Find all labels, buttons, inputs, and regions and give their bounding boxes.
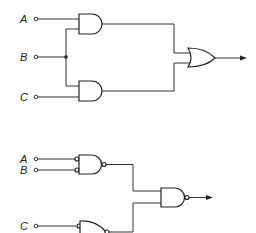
- inverter-bubble: [102, 163, 106, 167]
- input-terminal-c: [34, 95, 38, 99]
- and-gate-1: [79, 14, 102, 34]
- nor-gate-bottom: [80, 221, 106, 233]
- circuit-nand: A B C: [19, 153, 213, 233]
- wire-and1-or: [102, 24, 191, 53]
- or-gate: [188, 48, 215, 67]
- wire-bottom-nand: [109, 203, 161, 232]
- wire-top-nand: [106, 165, 161, 192]
- input-label-a: A: [19, 13, 27, 25]
- nand-gate-final: [161, 188, 185, 207]
- nand-gate-top: [79, 155, 102, 174]
- junction-dot: [64, 55, 68, 59]
- wire-a2-b2: [38, 159, 75, 170]
- output-arrow-icon: [240, 56, 247, 61]
- input-label-b2: B: [20, 164, 27, 176]
- input-terminal-b2: [34, 168, 38, 172]
- input-terminal-c2: [34, 224, 38, 228]
- and-gate-2: [79, 81, 102, 101]
- input-terminal-a: [34, 17, 38, 21]
- input-label-c2: C: [20, 220, 28, 232]
- inverter-bubble: [105, 230, 109, 233]
- logic-diagram: A B C A B C: [0, 0, 256, 233]
- input-label-c: C: [20, 91, 28, 103]
- input-terminal-b: [34, 55, 38, 59]
- wire-b-branch: [66, 29, 79, 86]
- output-arrow-icon: [206, 195, 213, 200]
- input-label-b: B: [20, 51, 27, 63]
- circuit-and-or: A B C: [19, 13, 247, 103]
- inverter-bubble: [185, 196, 189, 200]
- input-terminal-a2: [34, 157, 38, 161]
- wire-and2-or: [102, 63, 191, 91]
